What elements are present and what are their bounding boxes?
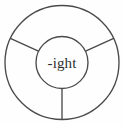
spoke-upper-left [10, 38, 38, 51]
word-wheel-svg: -ight [0, 0, 124, 125]
hub-label: -ight [48, 55, 78, 71]
spoke-upper-right [86, 38, 114, 51]
word-wheel-figure: -ight [0, 0, 124, 125]
